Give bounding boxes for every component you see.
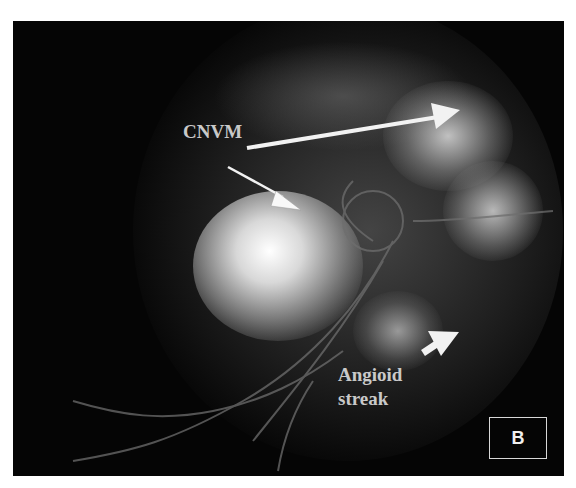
retinal-vessels <box>73 181 553 471</box>
vessels-and-arrows <box>13 21 564 476</box>
angioid-arrow <box>423 331 459 356</box>
long-arrow <box>247 103 460 148</box>
fundus-angiogram-image: CNVM Angioid streak B <box>13 21 564 476</box>
angioid-label-line2: streak <box>338 389 388 408</box>
panel-label-box: B <box>489 417 547 459</box>
angioid-label-line1: Angioid <box>338 365 402 384</box>
panel-label: B <box>512 428 525 449</box>
cnvm-arrow <box>228 167 283 197</box>
cnvm-arrowhead <box>271 191 301 210</box>
cnvm-label: CNVM <box>183 122 242 141</box>
